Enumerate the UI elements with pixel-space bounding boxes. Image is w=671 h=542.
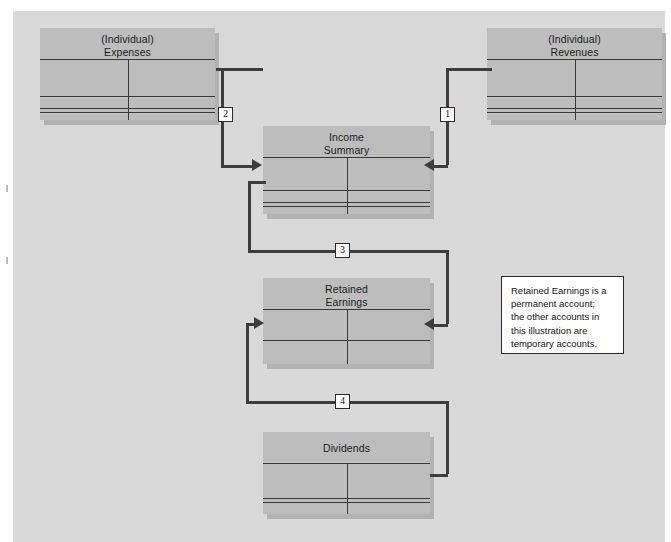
note-line-4: this illustration are <box>511 324 615 337</box>
t-account-title-line2: Summary <box>263 144 430 157</box>
note-callout: Retained Earnings is a permanent account… <box>501 276 624 354</box>
t-account-body: Income Summary <box>263 126 430 214</box>
connector-1-arrowhead-icon <box>424 159 434 171</box>
t-account-body: Dividends <box>263 432 430 514</box>
connector-2-segment-into-income-summary <box>221 165 254 168</box>
t-account-body: (Individual) Expenses <box>40 28 215 120</box>
t-account-title-line1: Income <box>263 131 430 144</box>
t-account-title: (Individual) Revenues <box>487 33 662 58</box>
t-account-center-divider <box>347 463 348 514</box>
note-line-3: the other accounts in <box>511 310 615 323</box>
t-account-expenses: (Individual) Expenses <box>40 28 215 120</box>
connector-4-segment-vertical-left <box>246 323 249 401</box>
connector-1-segment-top <box>446 68 492 71</box>
t-account-title-line1: Dividends <box>263 442 430 455</box>
t-account-title-line1: Retained <box>263 283 430 296</box>
t-account-center-divider <box>347 309 348 364</box>
t-account-center-divider <box>347 157 348 214</box>
note-line-2: permanent account; <box>511 297 615 310</box>
t-account-center-divider <box>575 59 576 120</box>
connector-2-arrowhead-icon <box>252 159 262 171</box>
scan-artifact <box>6 257 8 264</box>
t-account-title-line2: Earnings <box>263 296 430 309</box>
t-account-title-line2: Expenses <box>40 46 215 59</box>
note-line-1: Retained Earnings is a <box>511 284 615 297</box>
t-account-center-divider <box>128 59 129 120</box>
t-account-title: Dividends <box>263 442 430 455</box>
connector-4-segment-out-of-dividends <box>430 474 448 477</box>
t-account-title: Retained Earnings <box>263 283 430 308</box>
step-badge-1: 1 <box>440 107 455 122</box>
t-account-title-line1: (Individual) <box>40 33 215 46</box>
step-badge-3: 3 <box>335 243 350 258</box>
step-badge-4: 4 <box>335 394 350 409</box>
t-account-retained-earnings: Retained Earnings <box>263 278 430 364</box>
t-account-title: Income Summary <box>263 131 430 156</box>
connector-3-segment-vertical-left <box>248 181 251 250</box>
note-line-5: temporary accounts. <box>511 337 615 350</box>
t-account-body: (Individual) Revenues <box>487 28 662 120</box>
step-badge-2: 2 <box>218 107 233 122</box>
diagram-canvas: (Individual) Expenses (Individual) Reven… <box>0 0 671 542</box>
connector-3-arrowhead-icon <box>424 318 434 330</box>
t-account-dividends: Dividends <box>263 432 430 514</box>
t-account-title: (Individual) Expenses <box>40 33 215 58</box>
connector-1-segment-into-income-summary <box>434 165 448 168</box>
connector-3-segment-into-retained-earnings <box>434 324 448 327</box>
t-account-income-summary: Income Summary <box>263 126 430 214</box>
connector-3-segment-vertical-right <box>446 250 449 324</box>
connector-4-segment-vertical-right <box>446 401 449 474</box>
t-account-revenues: (Individual) Revenues <box>487 28 662 120</box>
t-account-title-line2: Revenues <box>487 46 662 59</box>
t-account-title-line1: (Individual) <box>487 33 662 46</box>
connector-4-arrowhead-icon <box>254 317 264 329</box>
t-account-body: Retained Earnings <box>263 278 430 364</box>
scan-artifact <box>6 185 8 192</box>
